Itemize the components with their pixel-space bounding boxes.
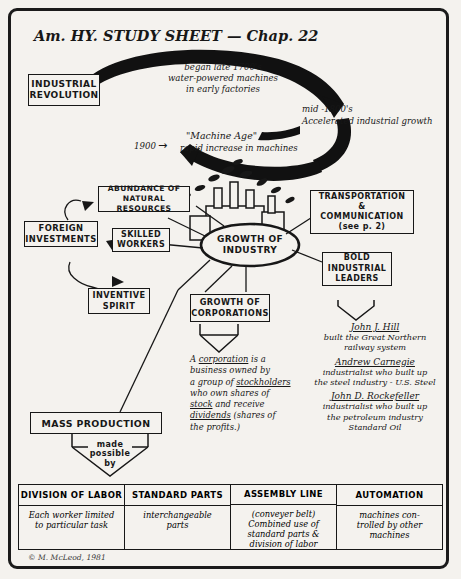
leader-name: John D. Rockefeller — [300, 391, 450, 401]
leader-description: built the Great Northern railway system — [300, 332, 450, 353]
leader-name: Andrew Carnegie — [300, 357, 450, 367]
leader-name: John J. Hill — [300, 322, 450, 332]
cycle-stage-3-title: "Machine Age" — [186, 131, 257, 142]
table-cell: (conveyer belt) Combined use of standard… — [231, 505, 336, 549]
hub-label: GROWTH OF INDUSTRY — [201, 234, 299, 257]
copyright-credit: © M. McLeod, 1981 — [28, 554, 106, 563]
corp-def-line2: business owned by — [190, 365, 270, 375]
table-column-automation: AUTOMATION machines con- trolled by othe… — [337, 485, 442, 549]
transportation-communication-label: TRANSPORTATION & COMMUNICATION (see p. 2… — [319, 192, 406, 233]
corp-def-line6-b: (shares of — [231, 410, 276, 420]
corp-def-term-stockholders: stockholders — [236, 377, 290, 387]
corp-def-term-dividends: dividends — [190, 410, 231, 420]
cause-box-skilled-workers: SKILLED WORKERS — [112, 228, 170, 252]
table-cell: Each worker limited to particular task — [19, 506, 124, 549]
cycle-stage-3-year: 1900 — [134, 142, 156, 152]
cause-label-foreign-investments: FOREIGN INVESTMENTS — [25, 223, 96, 245]
table-header: ASSEMBLY LINE — [231, 485, 336, 505]
table-cell: interchangeable parts — [125, 506, 230, 549]
cause-box-inventive-spirit: INVENTIVE SPIRIT — [88, 288, 150, 314]
transportation-communication-box: TRANSPORTATION & COMMUNICATION (see p. 2… — [310, 190, 414, 234]
cause-label-skilled-workers: SKILLED WORKERS — [117, 230, 165, 251]
corp-def-line1-b: is a — [248, 354, 265, 364]
made-possible-by-label: made possible by — [82, 440, 138, 468]
corp-def-line7: the profits.) — [190, 422, 240, 432]
cause-label-natural-resources: ABUNDANCE OF NATURAL RESOURCES — [99, 184, 189, 214]
cycle-stage-1-text: began late 1700's water-powered machines… — [168, 62, 278, 96]
table-cell: machines con- trolled by other machines — [337, 506, 442, 549]
corp-def-line3-a: a group of — [190, 377, 236, 387]
growth-of-corporations-label: GROWTH OF CORPORATIONS — [191, 297, 268, 318]
corp-def-term-corporation: corporation — [199, 354, 249, 364]
leader-entry: Andrew Carnegie industrialist who built … — [300, 357, 450, 388]
table-column-standard-parts: STANDARD PARTS interchangeable parts — [125, 485, 231, 549]
cause-label-inventive-spirit: INVENTIVE SPIRIT — [93, 290, 146, 311]
mass-production-box: MASS PRODUCTION — [30, 412, 162, 434]
industrial-revolution-box: INDUSTRIAL REVOLUTION — [28, 74, 100, 106]
growth-of-corporations-box: GROWTH OF CORPORATIONS — [190, 294, 270, 322]
cause-box-natural-resources: ABUNDANCE OF NATURAL RESOURCES — [98, 186, 190, 212]
cycle-stage-2-text: mid -1800's Accelerated industrial growt… — [302, 104, 433, 127]
table-column-division-of-labor: DIVISION OF LABOR Each worker limited to… — [19, 485, 125, 549]
mass-production-label: MASS PRODUCTION — [42, 418, 151, 429]
cycle-stage-3-arrow-icon: → — [158, 140, 167, 152]
table-header: STANDARD PARTS — [125, 485, 230, 506]
corporation-definition: A corporation is a business owned by a g… — [190, 354, 310, 433]
cycle-stage-3-text: rapid increase in machines — [180, 144, 298, 154]
study-sheet-page: Am. HY. STUDY SHEET — Chap. 22 INDUSTRIA… — [0, 0, 461, 579]
corp-def-line5-b: and receive — [212, 399, 264, 409]
page-title: Am. HY. STUDY SHEET — Chap. 22 — [34, 28, 318, 44]
corp-def-line4: who own shares of — [190, 388, 269, 398]
table-column-assembly-line: ASSEMBLY LINE (conveyer belt) Combined u… — [231, 485, 337, 549]
bold-industrial-leaders-label: BOLD INDUSTRIAL LEADERS — [328, 253, 386, 284]
industrial-revolution-label: INDUSTRIAL REVOLUTION — [30, 79, 99, 102]
mass-production-methods-table: DIVISION OF LABOR Each worker limited to… — [18, 484, 443, 550]
table-header: DIVISION OF LABOR — [19, 485, 124, 506]
corp-def-term-stock: stock — [190, 399, 212, 409]
corp-def-line1-a: A — [190, 354, 199, 364]
table-header: AUTOMATION — [337, 485, 442, 506]
leader-entry: John J. Hill built the Great Northern ra… — [300, 322, 450, 353]
industrial-leaders-list: John J. Hill built the Great Northern ra… — [300, 322, 450, 432]
cause-box-foreign-investments: FOREIGN INVESTMENTS — [24, 221, 98, 247]
leader-description: industrialist who built up the petroleum… — [300, 401, 450, 432]
leader-description: industrialist who built up the steel ind… — [300, 367, 450, 388]
leader-entry: John D. Rockefeller industrialist who bu… — [300, 391, 450, 432]
bold-industrial-leaders-box: BOLD INDUSTRIAL LEADERS — [322, 252, 392, 286]
